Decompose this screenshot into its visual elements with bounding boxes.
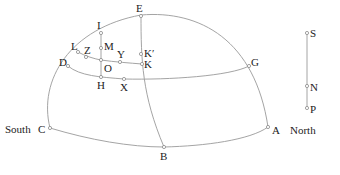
label-l: L bbox=[71, 40, 78, 52]
point-p bbox=[305, 106, 308, 109]
label-x: X bbox=[120, 81, 128, 93]
label-north: North bbox=[290, 124, 316, 136]
point-e bbox=[139, 14, 142, 17]
point-k-prime bbox=[139, 52, 142, 55]
label-d: D bbox=[59, 56, 67, 68]
circle-dg bbox=[68, 66, 249, 79]
point-i bbox=[99, 31, 102, 34]
label-m: M bbox=[104, 40, 114, 52]
label-south: South bbox=[5, 123, 31, 135]
point-o bbox=[99, 58, 102, 61]
point-c bbox=[48, 126, 51, 129]
meridian-arc bbox=[141, 15, 164, 147]
label-n: N bbox=[310, 81, 318, 93]
point-s bbox=[305, 31, 308, 34]
hemisphere-diagram: E I L Z M Y K′ K D O G H X C A B South N… bbox=[0, 0, 340, 175]
label-h: H bbox=[97, 79, 105, 91]
point-y bbox=[118, 60, 121, 63]
label-g: G bbox=[251, 56, 259, 68]
label-z: Z bbox=[84, 44, 91, 56]
label-e: E bbox=[136, 2, 143, 14]
point-n bbox=[305, 84, 308, 87]
label-s: S bbox=[310, 27, 316, 39]
label-b: B bbox=[160, 150, 167, 162]
point-a bbox=[266, 125, 269, 128]
label-k: K bbox=[144, 58, 152, 70]
horizon-arc bbox=[50, 127, 268, 147]
label-i: I bbox=[97, 19, 101, 31]
label-p: P bbox=[310, 103, 316, 115]
point-b bbox=[162, 145, 165, 148]
label-a: A bbox=[272, 124, 280, 136]
label-o: O bbox=[104, 62, 112, 74]
label-y: Y bbox=[117, 48, 125, 60]
label-c: C bbox=[38, 123, 45, 135]
point-m bbox=[99, 46, 102, 49]
